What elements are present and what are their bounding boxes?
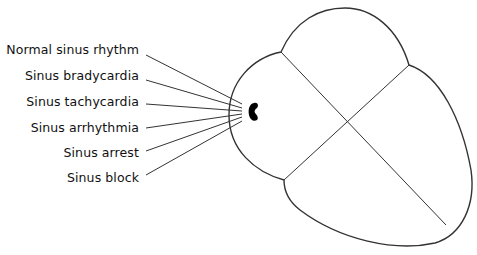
sinus-rhythm-diagram: Normal sinus rhythm Sinus bradycardia Si… [0,0,477,255]
leader-line-sinus-arrhythmia [146,114,242,128]
label-sinus-bradycardia: Sinus bradycardia [25,69,139,83]
sa-node-icon [249,103,258,121]
leader-line-normal-sinus-rhythm [146,55,242,104]
leader-lines [146,55,242,175]
leader-line-sinus-bradycardia [146,80,242,108]
septum-diagonal-line [281,52,446,225]
leader-line-sinus-block [146,121,242,175]
label-sinus-tachycardia: Sinus tachycardia [26,95,139,109]
leader-line-sinus-tachycardia [146,104,242,111]
label-sinus-arrhythmia: Sinus arrhythmia [31,121,139,135]
leader-line-sinus-arrest [146,117,242,151]
heart-outline [229,8,472,246]
av-groove-line [284,65,409,180]
label-normal-sinus-rhythm: Normal sinus rhythm [6,43,139,57]
label-sinus-block: Sinus block [67,171,139,185]
label-sinus-arrest: Sinus arrest [64,146,140,160]
